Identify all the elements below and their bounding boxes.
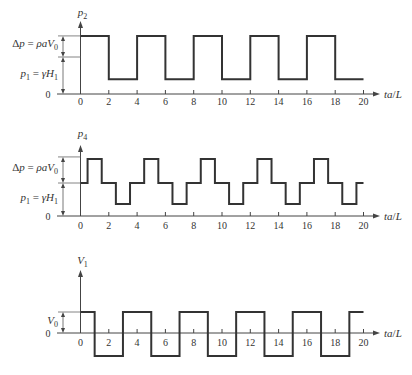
x-tick-label: 20: [359, 220, 369, 231]
x-tick-label: 4: [135, 96, 140, 107]
y-zero-label: 0: [46, 89, 51, 100]
x-axis-arrow-icon: [373, 331, 380, 336]
x-tick-label: 12: [245, 96, 255, 107]
x-tick-label: 18: [330, 220, 340, 231]
x-tick-label: 8: [191, 220, 196, 231]
x-tick-label: 10: [217, 220, 227, 231]
waveform-v1: [81, 312, 364, 356]
x-tick-label: 14: [274, 96, 284, 107]
x-tick-label: 2: [106, 337, 111, 348]
dimension-label: p1 = γH1: [20, 191, 59, 206]
dimension-arrow-down-icon: [61, 211, 65, 216]
y-axis-label: p4: [77, 127, 88, 142]
y-axis-label: p2: [77, 6, 88, 21]
panel-p2-pressure: ta/Lp2002468101214161820p1 = γH1Δp = ρaV…: [12, 6, 402, 107]
y-axis-arrow-icon: [78, 270, 83, 277]
y-axis-arrow-icon: [78, 145, 83, 152]
x-tick-label: 0: [78, 337, 83, 348]
panel-p4-pressure: ta/Lp4002468101214161820p1 = γH1Δp = ρaV…: [12, 127, 402, 231]
dimension-arrow-down-icon: [61, 328, 65, 333]
x-tick-label: 8: [191, 337, 196, 348]
dimension-arrow-up-icon: [61, 36, 65, 41]
x-tick-label: 10: [217, 337, 227, 348]
y-axis-label: V1: [77, 254, 88, 269]
x-tick-label: 16: [302, 96, 312, 107]
dimension-label: V0: [47, 314, 58, 329]
panel-v1-velocity: ta/LV1002468101214161820V0: [46, 254, 402, 356]
x-tick-label: 6: [163, 220, 168, 231]
x-tick-label: 0: [78, 220, 83, 231]
x-tick-label: 4: [135, 220, 140, 231]
x-tick-label: 4: [135, 337, 140, 348]
x-tick-label: 14: [274, 220, 284, 231]
dimension-arrow-up-icon: [61, 157, 65, 162]
x-tick-label: 14: [274, 337, 284, 348]
x-axis-label: ta/L: [384, 210, 402, 222]
dimension-label: Δp = ρaV0: [12, 37, 58, 52]
x-tick-label: 16: [302, 337, 312, 348]
dimension-arrow-down-icon: [61, 52, 65, 57]
x-axis-arrow-icon: [373, 214, 380, 219]
x-tick-label: 2: [106, 96, 111, 107]
x-tick-label: 2: [106, 220, 111, 231]
waveform-figure: ta/Lp2002468101214161820p1 = γH1Δp = ρaV…: [0, 0, 412, 375]
x-tick-label: 18: [330, 337, 340, 348]
x-tick-label: 12: [245, 220, 255, 231]
x-tick-label: 12: [245, 337, 255, 348]
x-axis-label: ta/L: [384, 88, 402, 100]
dimension-arrow-up-icon: [61, 183, 65, 188]
x-tick-label: 16: [302, 220, 312, 231]
dimension-label: Δp = ρaV0: [12, 161, 58, 176]
x-axis-arrow-icon: [373, 92, 380, 97]
dimension-arrow-down-icon: [61, 89, 65, 94]
y-zero-label: 0: [46, 328, 51, 339]
dimension-label: p1 = γH1: [20, 67, 59, 82]
dimension-arrow-down-icon: [61, 178, 65, 183]
waveform-p4: [81, 159, 364, 204]
waveform-p2: [81, 36, 364, 79]
x-tick-label: 8: [191, 96, 196, 107]
y-zero-label: 0: [46, 211, 51, 222]
x-axis-label: ta/L: [384, 327, 402, 339]
dimension-arrow-up-icon: [61, 57, 65, 62]
x-tick-label: 18: [330, 96, 340, 107]
x-tick-label: 20: [359, 337, 369, 348]
waveform-figure-canvas: ta/Lp2002468101214161820p1 = γH1Δp = ρaV…: [0, 0, 412, 375]
dimension-arrow-up-icon: [61, 312, 65, 317]
y-axis-arrow-icon: [78, 21, 83, 28]
x-tick-label: 6: [163, 96, 168, 107]
x-tick-label: 10: [217, 96, 227, 107]
x-tick-label: 20: [359, 96, 369, 107]
x-tick-label: 0: [78, 96, 83, 107]
x-tick-label: 6: [163, 337, 168, 348]
